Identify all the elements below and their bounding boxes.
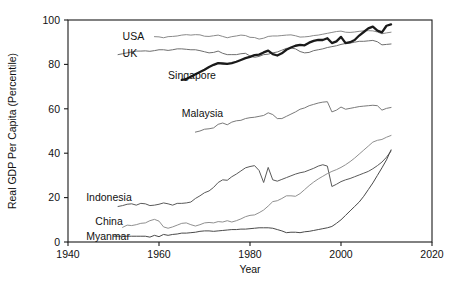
series-line-malaysia xyxy=(195,102,391,132)
x-tick-label-1960: 1960 xyxy=(147,248,171,260)
series-label-usa: USA xyxy=(123,30,145,42)
y-tick-label-20: 20 xyxy=(48,191,60,203)
series-label-myanmar: Myanmar xyxy=(86,230,130,242)
y-axis-title: Real GDP Per Capita (Percentile) xyxy=(6,53,18,209)
y-tick-label-100: 100 xyxy=(42,14,60,26)
series-line-indonesia xyxy=(118,151,391,207)
line-chart: 02040608010019401960198020002020YearReal… xyxy=(0,0,459,293)
series-label-uk: UK xyxy=(123,47,138,59)
series-line-myanmar xyxy=(114,150,392,237)
y-tick-label-0: 0 xyxy=(54,236,60,248)
y-tick-label-80: 80 xyxy=(48,58,60,70)
x-tick-label-1940: 1940 xyxy=(56,248,80,260)
x-axis-title: Year xyxy=(239,263,261,275)
series-label-malaysia: Malaysia xyxy=(182,107,224,119)
y-tick-label-60: 60 xyxy=(48,103,60,115)
series-label-indonesia: Indonesia xyxy=(86,191,132,203)
series-label-china: China xyxy=(95,215,123,227)
x-tick-label-1980: 1980 xyxy=(238,248,262,260)
x-tick-label-2020: 2020 xyxy=(420,248,444,260)
x-tick-label-2000: 2000 xyxy=(329,248,353,260)
series-line-china xyxy=(123,135,391,228)
series-label-singapore: Singapore xyxy=(168,69,216,81)
chart-figure: 02040608010019401960198020002020YearReal… xyxy=(0,0,459,293)
y-tick-label-40: 40 xyxy=(48,147,60,159)
